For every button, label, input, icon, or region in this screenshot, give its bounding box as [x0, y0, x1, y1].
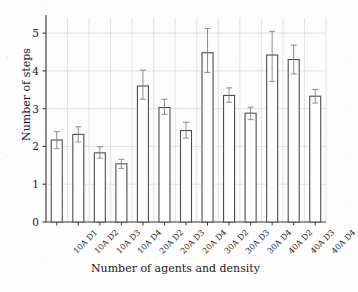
bar	[181, 131, 192, 222]
bar	[310, 96, 321, 222]
bar	[51, 140, 62, 222]
bar	[94, 153, 105, 222]
bar	[245, 113, 256, 222]
bar	[137, 86, 148, 222]
bar	[288, 60, 299, 222]
bar	[116, 164, 127, 222]
bar	[202, 53, 213, 222]
bar	[159, 108, 170, 222]
bar	[224, 95, 235, 222]
bar	[73, 134, 84, 222]
